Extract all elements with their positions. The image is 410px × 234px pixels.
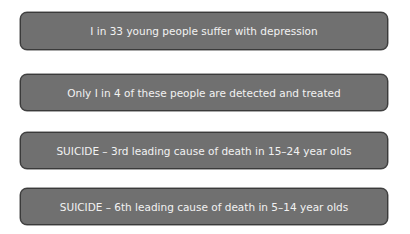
stat-box-depression-prevalence: I in 33 young people suffer with depress… [20, 12, 388, 50]
stat-text: I in 33 young people suffer with depress… [90, 25, 317, 37]
stat-text: SUICIDE – 3rd leading cause of death in … [56, 145, 351, 157]
stat-box-suicide-15-24: SUICIDE – 3rd leading cause of death in … [20, 132, 388, 169]
stat-text: Only I in 4 of these people are detected… [67, 87, 340, 99]
stat-text: SUICIDE – 6th leading cause of death in … [60, 201, 348, 213]
stat-box-detection-rate: Only I in 4 of these people are detected… [20, 74, 388, 111]
stat-box-suicide-5-14: SUICIDE – 6th leading cause of death in … [20, 188, 388, 225]
